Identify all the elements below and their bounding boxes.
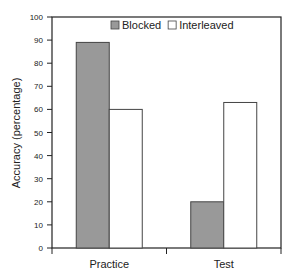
y-tick-label: 20 [34, 198, 43, 207]
bar-blocked-practice [76, 42, 109, 248]
x-tick-label: Practice [89, 258, 129, 270]
legend-label-blocked: Blocked [122, 19, 161, 31]
bars [76, 42, 257, 248]
y-tick-label: 70 [34, 82, 43, 91]
x-tick-label: Test [214, 258, 234, 270]
y-tick-label: 40 [34, 152, 43, 161]
y-axis-label: Accuracy (percentage) [10, 78, 22, 189]
bar-interleaved-test [224, 102, 257, 248]
y-tick-label: 30 [34, 175, 43, 184]
y-tick-label: 80 [34, 59, 43, 68]
legend-label-interleaved: Interleaved [179, 19, 233, 31]
legend-swatch-blocked [111, 21, 119, 29]
bar-blocked-test [191, 202, 224, 248]
legend: BlockedInterleaved [111, 19, 234, 31]
y-tick-label: 50 [34, 129, 43, 138]
y-tick-label: 10 [34, 221, 43, 230]
bar-interleaved-practice [109, 109, 142, 248]
y-tick-label: 90 [34, 36, 43, 45]
y-tick-label: 60 [34, 105, 43, 114]
y-tick-label: 0 [39, 244, 44, 253]
y-tick-label: 100 [30, 13, 44, 22]
bar-chart: 0102030405060708090100PracticeTest Block… [0, 0, 298, 280]
legend-swatch-interleaved [168, 21, 176, 29]
